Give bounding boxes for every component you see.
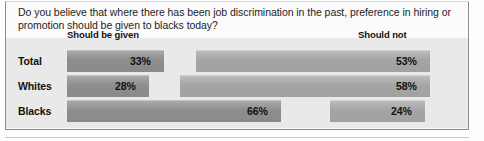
bar-should-be-given <box>67 75 149 97</box>
bottom-divider <box>5 137 469 138</box>
poll-chart-figure: Do you believe that where there has been… <box>0 0 484 141</box>
bar-value-should-not: 53% <box>396 50 417 72</box>
column-header-should-not: Should not <box>358 29 407 40</box>
bar-value-should-not: 58% <box>396 75 417 97</box>
bar-value-should-be-given: 33% <box>130 50 151 72</box>
bar-should-not <box>196 50 430 72</box>
row-label: Whites <box>18 75 62 97</box>
column-header-should-be-given: Should be given <box>67 29 139 40</box>
bar-value-should-be-given: 28% <box>115 75 136 97</box>
bar-should-not <box>180 75 430 97</box>
row-label: Blacks <box>18 100 62 122</box>
row-label: Total <box>18 50 62 72</box>
bar-value-should-be-given: 66% <box>247 100 268 122</box>
bar-value-should-not: 24% <box>391 100 412 122</box>
